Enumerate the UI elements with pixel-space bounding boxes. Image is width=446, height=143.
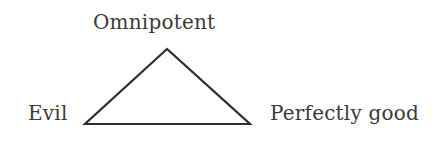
vertex-label-omnipotent: Omnipotent [93,12,215,32]
triangle-outline [85,49,250,124]
vertex-label-perfectly-good: Perfectly good [270,103,419,123]
vertex-label-evil: Evil [28,103,68,123]
triangle-diagram: Omnipotent Evil Perfectly good [0,0,446,143]
